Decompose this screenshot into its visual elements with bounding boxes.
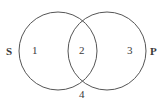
region-label-outside: 4 xyxy=(79,89,85,100)
region-label-intersection: 2 xyxy=(79,45,85,56)
region-label-left-only: 1 xyxy=(32,45,38,56)
set-label-p: P xyxy=(150,46,157,57)
region-label-right-only: 3 xyxy=(127,45,133,56)
circle-set-s xyxy=(19,12,97,90)
set-label-s: S xyxy=(6,46,12,57)
venn-diagram-figure: S P 1 2 3 4 xyxy=(0,0,164,103)
